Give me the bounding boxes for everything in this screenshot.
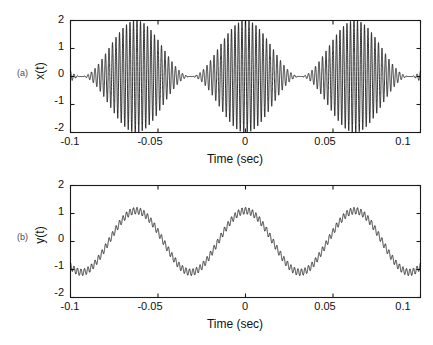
- panel-a-trace: [71, 21, 421, 133]
- panel-b-trace: [71, 207, 421, 275]
- panel-b: (b) y(t) 2 1 0 -1 -2 -0.1 -0.05 0 0.05 0…: [0, 172, 433, 345]
- panel-b-plot: [0, 172, 433, 345]
- figure-amplitude-modulation: (a) x(t) 2 1 0 -1 -2 -0.1 -0.05 0 0.05 0…: [0, 0, 433, 345]
- panel-a: (a) x(t) 2 1 0 -1 -2 -0.1 -0.05 0 0.05 0…: [0, 0, 433, 175]
- panel-b-tickmarks: [71, 186, 421, 298]
- panel-a-plot: [0, 0, 433, 175]
